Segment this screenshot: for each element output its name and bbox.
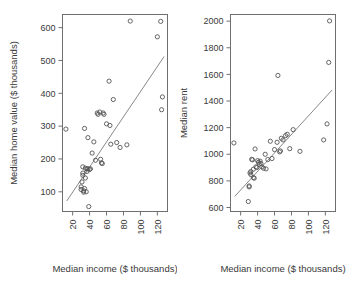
scatter-points-left [64, 19, 165, 209]
y-tick-label: 200 [40, 154, 55, 164]
scatter-point [268, 139, 272, 143]
scatter-point [266, 157, 270, 161]
y-tick-label: 1800 [203, 43, 223, 53]
y-axis-ticklabels-right: 600800100012001400160018002000 [203, 16, 223, 212]
scatter-point [111, 97, 115, 101]
scatter-point [232, 141, 236, 145]
plot-box-left [63, 15, 168, 212]
panel-median-rent: 600800100012001400160018002000 204060801… [177, 0, 354, 295]
plot-box-right [231, 15, 336, 212]
scatter-points-right [232, 19, 332, 204]
scatter-point [275, 140, 279, 144]
scatter-point [125, 143, 129, 147]
scatter-point [272, 148, 276, 152]
scatter-point [270, 156, 274, 160]
y-tick-label: 1000 [203, 149, 223, 159]
regression-line-left [67, 57, 164, 201]
scatter-point [159, 108, 163, 112]
scatter-point [109, 142, 113, 146]
y-tick-label: 500 [40, 56, 55, 66]
x-tick-label: 40 [85, 220, 95, 230]
y-tick-label: 1400 [203, 96, 223, 106]
y-axis-title-right: Median rent [178, 88, 189, 139]
scatter-point [102, 112, 106, 116]
figure-two-scatter-panels: 100200300400500600 20406080100120 Median… [0, 0, 355, 295]
y-tick-label: 800 [208, 176, 223, 186]
scatter-point [159, 19, 163, 23]
scatter-point [160, 95, 164, 99]
scatter-point [249, 169, 253, 173]
panel-home-value: 100200300400500600 20406080100120 Median… [0, 0, 177, 295]
scatter-point [246, 199, 250, 203]
y-tick-label: 1600 [203, 70, 223, 80]
x-tick-label: 80 [119, 220, 129, 230]
scatter-point [325, 122, 329, 126]
scatter-point [83, 176, 87, 180]
x-tick-label: 60 [270, 220, 280, 230]
x-tick-label: 120 [321, 220, 331, 235]
x-axis-ticklabels-left: 20406080100120 [68, 220, 163, 235]
scatter-point [87, 204, 91, 208]
x-tick-label: 40 [253, 220, 263, 230]
x-axis-title-right: Median income ($ thousands) [220, 263, 345, 274]
scatter-point [90, 151, 94, 155]
scatter-point [322, 138, 326, 142]
scatter-point [80, 180, 84, 184]
y-axis-ticks-left [59, 28, 63, 192]
x-tick-label: 20 [236, 220, 246, 230]
y-tick-label: 1200 [203, 123, 223, 133]
y-tick-label: 600 [208, 203, 223, 213]
x-axis-ticks-right [241, 212, 326, 216]
scatter-point [118, 145, 122, 149]
y-axis-title-left: Median home value ($ thousands) [8, 41, 19, 185]
x-tick-label: 20 [68, 220, 78, 230]
y-axis-ticklabels-left: 100200300400500600 [40, 23, 55, 197]
x-tick-label: 120 [153, 220, 163, 235]
scatter-point [327, 60, 331, 64]
scatter-point [298, 149, 302, 153]
panel-median-rent-svg: 600800100012001400160018002000 204060801… [177, 0, 355, 295]
scatter-point [86, 136, 90, 140]
scatter-point [115, 140, 119, 144]
scatter-point [253, 147, 257, 151]
scatter-point [264, 167, 268, 171]
scatter-point [92, 140, 96, 144]
x-tick-label: 80 [287, 220, 297, 230]
scatter-point [276, 73, 280, 77]
y-tick-label: 400 [40, 89, 55, 99]
y-axis-ticks-right [227, 21, 231, 207]
x-axis-ticklabels-right: 20406080100120 [236, 220, 331, 235]
scatter-point [128, 19, 132, 23]
scatter-point [64, 127, 68, 131]
y-tick-label: 2000 [203, 16, 223, 26]
y-tick-label: 600 [40, 23, 55, 33]
scatter-point [288, 147, 292, 151]
x-tick-label: 100 [136, 220, 146, 235]
scatter-point [155, 35, 159, 39]
x-axis-title-left: Median income ($ thousands) [52, 263, 177, 274]
regression-line-right [235, 90, 332, 196]
y-tick-label: 100 [40, 187, 55, 197]
x-axis-ticks-left [73, 212, 158, 216]
scatter-point [263, 152, 267, 156]
x-tick-label: 100 [304, 220, 314, 235]
y-tick-label: 300 [40, 121, 55, 131]
scatter-point [82, 126, 86, 130]
x-tick-label: 60 [102, 220, 112, 230]
scatter-point [327, 19, 331, 23]
scatter-point [291, 128, 295, 132]
panel-home-value-svg: 100200300400500600 20406080100120 Median… [0, 0, 177, 295]
scatter-point [107, 79, 111, 83]
